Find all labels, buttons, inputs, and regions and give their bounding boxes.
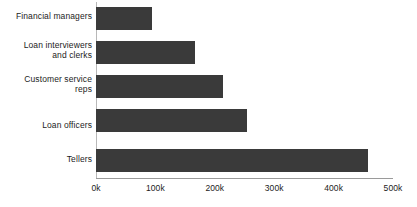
bar-customer-service-reps[interactable] bbox=[96, 75, 223, 98]
x-axis-tick-100k: 100k bbox=[146, 183, 165, 193]
y-axis-label-financial-managers: Financial managers bbox=[0, 11, 92, 21]
y-axis-label-customer-service-reps: Customer servicereps bbox=[0, 74, 92, 94]
bar-chart: Financial managers Loan interviewersand … bbox=[0, 0, 417, 207]
x-axis-tick-500k: 500k bbox=[384, 183, 403, 193]
bar-loan-interviewers-and-clerks[interactable] bbox=[96, 41, 195, 64]
y-axis-label-tellers: Tellers bbox=[0, 154, 92, 164]
x-axis-tick-0k: 0k bbox=[91, 183, 100, 193]
y-axis-label-loan-officers: Loan officers bbox=[0, 120, 92, 130]
bar-tellers[interactable] bbox=[96, 149, 368, 172]
bar-financial-managers[interactable] bbox=[96, 7, 152, 30]
x-axis-tick-200k: 200k bbox=[205, 183, 224, 193]
bar-loan-officers[interactable] bbox=[96, 109, 247, 132]
x-axis-line bbox=[96, 178, 393, 179]
x-axis-tick-300k: 300k bbox=[265, 183, 284, 193]
x-axis-tick-400k: 400k bbox=[324, 183, 343, 193]
plot-area bbox=[96, 0, 417, 178]
y-axis-label-loan-interviewers-and-clerks: Loan interviewersand clerks bbox=[0, 40, 92, 60]
y-axis-category-labels: Financial managers Loan interviewersand … bbox=[0, 0, 92, 178]
